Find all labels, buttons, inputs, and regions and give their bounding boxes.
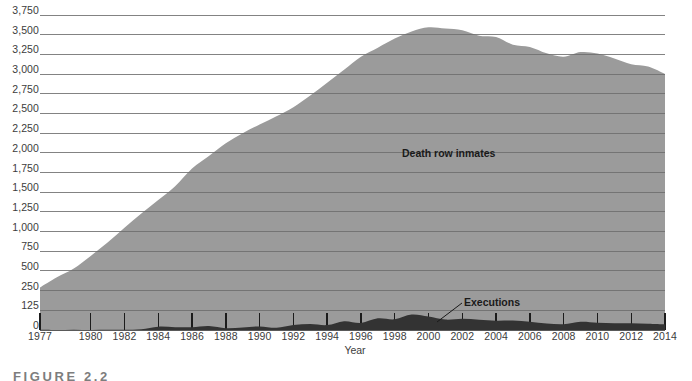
x-axis-tick-label: 2012 bbox=[619, 330, 643, 342]
x-axis-tick-label: 2002 bbox=[450, 330, 474, 342]
series-label-death-row-inmates: Death row inmates bbox=[402, 147, 495, 159]
x-axis-tick-label: 1982 bbox=[113, 330, 137, 342]
y-axis-tick-label: 3,750 bbox=[1, 5, 39, 15]
x-axis-tick-label: 1990 bbox=[248, 330, 272, 342]
y-axis-tick-label: 0 bbox=[1, 320, 39, 330]
x-axis-tick-label: 1998 bbox=[383, 330, 407, 342]
death-row-inmates-area bbox=[40, 27, 665, 330]
y-axis-tick-label: 1,250 bbox=[1, 202, 39, 212]
y-axis-tick-labels: 01252505007501,0001,2501,5001,7502,0002,… bbox=[0, 0, 39, 352]
y-axis-tick-label: 3,500 bbox=[1, 25, 39, 35]
x-axis-tick-label: 2006 bbox=[518, 330, 542, 342]
y-axis-tick-label: 3,250 bbox=[1, 44, 39, 54]
series-label-executions: Executions bbox=[464, 296, 520, 308]
x-axis-tick-label: 1988 bbox=[214, 330, 238, 342]
y-axis-tick-label: 250 bbox=[1, 281, 39, 291]
x-axis-tick-label: 2008 bbox=[552, 330, 576, 342]
y-axis-tick-label: 500 bbox=[1, 261, 39, 271]
figure-container: 01252505007501,0001,2501,5001,7502,0002,… bbox=[0, 0, 692, 381]
y-axis-tick-label: 2,250 bbox=[1, 123, 39, 133]
x-axis-tick-label: 2014 bbox=[653, 330, 677, 342]
x-axis-tick-label: 2000 bbox=[417, 330, 441, 342]
x-axis-tick-label: 1984 bbox=[146, 330, 170, 342]
y-axis-tick-label: 3,000 bbox=[1, 64, 39, 74]
x-axis-tick-label: 2010 bbox=[586, 330, 610, 342]
figure-caption: FIGURE 2.2 bbox=[13, 369, 110, 381]
y-axis-tick-label: 1,000 bbox=[1, 222, 39, 232]
chart-plot-area bbox=[0, 0, 692, 352]
y-axis-tick-label: 2,000 bbox=[1, 143, 39, 153]
y-axis-tick-label: 750 bbox=[1, 241, 39, 251]
x-axis-tick-label: 1986 bbox=[180, 330, 204, 342]
x-axis-tick-label: 1980 bbox=[79, 330, 103, 342]
y-axis-tick-label: 2,500 bbox=[1, 103, 39, 113]
x-axis-tick-label: 1996 bbox=[349, 330, 373, 342]
y-axis-tick-label: 2,750 bbox=[1, 84, 39, 94]
area-chart-svg bbox=[0, 0, 692, 352]
x-axis-tick-label: 1994 bbox=[315, 330, 339, 342]
x-axis-tick-label: 1992 bbox=[281, 330, 305, 342]
x-axis-tick-label: 2004 bbox=[484, 330, 508, 342]
y-axis-tick-label: 1,500 bbox=[1, 182, 39, 192]
x-axis-title: Year bbox=[344, 344, 365, 356]
y-axis-tick-label: 1,750 bbox=[1, 163, 39, 173]
y-axis-tick-label: 125 bbox=[1, 300, 39, 310]
x-axis-tick-label: 1977 bbox=[28, 330, 52, 342]
